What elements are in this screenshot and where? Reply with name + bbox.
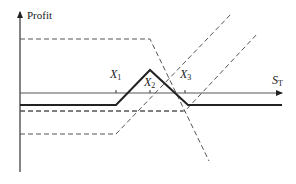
strike-label-x1: X1 <box>109 67 121 82</box>
y-axis-label: Profit <box>27 9 52 21</box>
long-call-x3-line <box>20 33 258 111</box>
x-axis-label: ST <box>272 73 283 88</box>
strike-label-x3: X3 <box>179 67 191 82</box>
payoff-diagram: Profit ST X1 X2 X3 <box>0 0 296 184</box>
strike-label-x2: X2 <box>143 75 155 90</box>
long-call-x1-line <box>20 13 232 134</box>
short-call-x2-top-line <box>20 39 209 161</box>
